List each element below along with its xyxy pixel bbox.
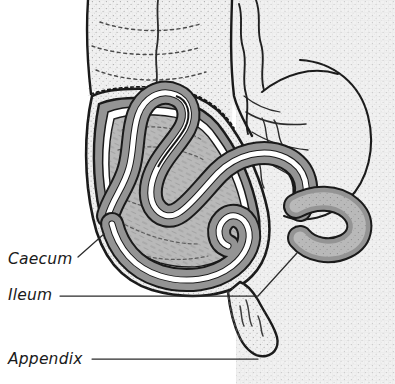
anatomy-figure: Caecum Ileum Appendix bbox=[0, 0, 395, 384]
label-ileum: Ileum bbox=[8, 286, 52, 304]
label-appendix: Appendix bbox=[7, 350, 83, 368]
anatomy-illustration: Caecum Ileum Appendix bbox=[0, 0, 395, 384]
label-caecum: Caecum bbox=[8, 250, 73, 268]
